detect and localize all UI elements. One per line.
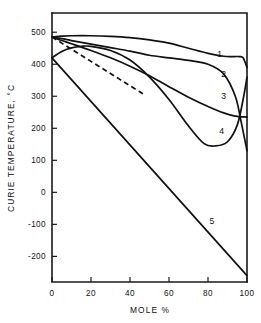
x-axis-title: MOLE % — [130, 305, 170, 315]
y-tick-label-300: 300 — [31, 92, 46, 101]
y-tick-label-400: 400 — [31, 60, 46, 69]
y-axis-tick-labels: 5004003002001000-100-200 — [28, 28, 46, 261]
y-tick-label-0: 0 — [41, 188, 46, 197]
chart-canvas: 020406080100 5004003002001000-100-200 12… — [0, 0, 261, 323]
curve-labels: 12345 — [210, 49, 227, 226]
curve-5 — [52, 58, 247, 276]
y-tick-label--100: -100 — [28, 220, 46, 229]
x-tick-label-0: 0 — [50, 289, 55, 298]
x-tick-label-80: 80 — [203, 289, 213, 298]
y-tick-label-500: 500 — [31, 28, 46, 37]
x-axis-tick-labels: 020406080100 — [50, 289, 255, 298]
curie-temperature-chart: 020406080100 5004003002001000-100-200 12… — [0, 0, 261, 323]
curve-4 — [52, 46, 247, 146]
x-tick-label-40: 40 — [125, 289, 135, 298]
curve-label-4: 4 — [219, 126, 224, 136]
y-tick-label-100: 100 — [31, 156, 46, 165]
x-tick-label-20: 20 — [86, 289, 96, 298]
x-tick-label-100: 100 — [240, 289, 255, 298]
x-tick-label-60: 60 — [164, 289, 174, 298]
y-axis-title: CURIE TEMPERATURE, °C — [6, 84, 16, 212]
data-curves — [52, 36, 247, 276]
curve-label-2: 2 — [221, 69, 226, 79]
curve-label-1: 1 — [217, 49, 222, 59]
curve-label-3: 3 — [221, 91, 226, 101]
y-tick-label--200: -200 — [28, 252, 46, 261]
y-tick-label-200: 200 — [31, 124, 46, 133]
curve-label-5: 5 — [210, 216, 215, 226]
